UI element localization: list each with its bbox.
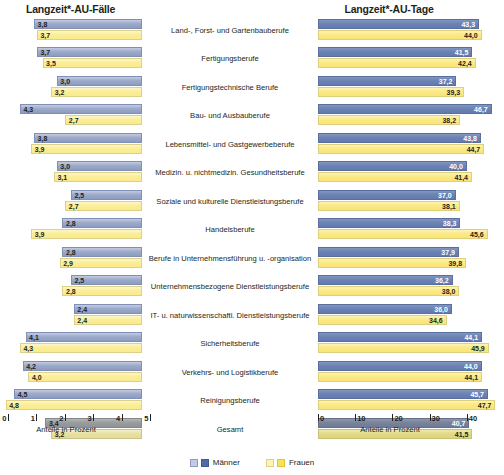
axis-tick-label: 30 <box>430 414 440 423</box>
bar-value-label: 2,4 <box>77 305 87 315</box>
category-label: Unternehmensbezogene Dienstleistungsberu… <box>150 273 310 302</box>
bar-value-label: 4,3 <box>23 344 33 354</box>
bar-value-label: 41,5 <box>455 430 469 440</box>
bar-frauen: 3,9 <box>31 229 142 239</box>
category-label: IT- u. naturwissenschaftl. Dienstleistun… <box>150 301 310 330</box>
category-label: Verkehrs- und Logistikberufe <box>150 358 310 387</box>
bar-value-label: 37,0 <box>438 191 452 201</box>
bar-value-label: 2,4 <box>77 316 87 326</box>
chart-row: 3,73,5 <box>0 45 150 74</box>
bar-frauen: 38,0 <box>318 286 459 296</box>
axis-tick <box>65 414 66 421</box>
bar-maenner: 2,8 <box>62 218 142 228</box>
bar-maenner: 4,2 <box>23 361 142 371</box>
bar-value-label: 4,2 <box>26 362 36 372</box>
category-label: Reinigungsberufe <box>150 387 310 416</box>
bar-value-label: 2,8 <box>66 287 76 297</box>
legend-label: Frauen <box>289 458 314 467</box>
bar-value-label: 3,9 <box>35 230 45 240</box>
bar-value-label: 2,7 <box>69 116 79 126</box>
chart-root: Langzeit*-AU-Fälle Langzeit*-AU-Tage 3,8… <box>0 0 504 475</box>
axis-tick <box>36 414 37 421</box>
bar-value-label: 3,1 <box>57 173 67 183</box>
bar-value-label: 38,3 <box>443 219 457 229</box>
axis-tick <box>93 414 94 421</box>
bar-frauen: 2,7 <box>65 115 142 125</box>
bar-maenner: 36,2 <box>318 275 453 285</box>
bar-value-label: 38,0 <box>442 287 456 297</box>
chart-row: 2,52,8 <box>0 273 150 302</box>
bar-value-label: 3,8 <box>38 20 48 30</box>
category-label: Lebensmittel- und Gastgewerbeberufe <box>150 130 310 159</box>
chart-row: 2,83,9 <box>0 216 150 245</box>
bar-frauen: 3,7 <box>37 30 142 40</box>
x-axis-title-right: Anteile in Prozent <box>360 425 420 434</box>
x-axis-title-left: Anteile in Prozent <box>36 425 96 434</box>
bar-maenner: 44,0 <box>318 361 482 371</box>
bar-value-label: 43,8 <box>463 134 477 144</box>
bar-maenner: 37,2 <box>318 76 456 86</box>
bar-frauen: 47,7 <box>318 400 495 410</box>
bar-value-label: 47,7 <box>478 401 492 411</box>
axis-tick-label: 10 <box>355 414 365 423</box>
bar-maenner: 36,0 <box>318 304 452 314</box>
bar-value-label: 37,2 <box>439 77 453 87</box>
bar-frauen: 2,7 <box>65 201 142 211</box>
axis-tick-label: 0 <box>318 414 324 423</box>
bar-value-label: 44,0 <box>464 362 478 372</box>
bar-value-label: 3,9 <box>35 145 45 155</box>
chart-row: 4,14,3 <box>0 330 150 359</box>
axis-tick-label: 1 <box>31 414 37 423</box>
bar-value-label: 46,7 <box>474 105 488 115</box>
bar-value-label: 38,1 <box>442 202 456 212</box>
bar-value-label: 44,7 <box>467 145 481 155</box>
bar-value-label: 36,0 <box>434 305 448 315</box>
bar-value-label: 4,5 <box>18 390 28 400</box>
axis-tick <box>150 414 151 421</box>
bar-value-label: 4,1 <box>29 333 39 343</box>
axis-tick-label: 40 <box>467 414 477 423</box>
bar-frauen: 44,0 <box>318 30 482 40</box>
bar-value-label: 45,9 <box>471 344 485 354</box>
bar-maenner: 2,8 <box>62 247 142 257</box>
legend-swatch-light-icon <box>190 459 198 467</box>
chart-row: 3,83,7 <box>0 16 150 45</box>
category-label: Sicherheitsberufe <box>150 330 310 359</box>
category-label: Fertigungsberufe <box>150 45 310 74</box>
bar-value-label: 39,8 <box>448 259 462 269</box>
bar-value-label: 2,9 <box>63 259 73 269</box>
bar-frauen: 2,4 <box>74 315 142 325</box>
chart-row: 2,52,7 <box>0 187 150 216</box>
chart-row: 46,738,2 <box>310 102 504 131</box>
category-label: Land-, Forst- und Gartenbauberufe <box>150 16 310 45</box>
chart-row: 36,034,6 <box>310 301 504 330</box>
bar-value-label: 42,4 <box>458 59 472 69</box>
category-label: Handelsberufe <box>150 216 310 245</box>
bar-frauen: 39,3 <box>318 87 464 97</box>
bar-value-label: 3,0 <box>60 162 70 172</box>
bar-frauen: 4,8 <box>6 400 142 410</box>
bar-frauen: 3,2 <box>51 87 142 97</box>
category-label: Berufe in Unternehmensführung u. -organi… <box>150 244 310 273</box>
chart-row: 3,03,1 <box>0 159 150 188</box>
legend-label: Männer <box>213 458 240 467</box>
bar-maenner: 3,8 <box>34 133 142 143</box>
bar-frauen: 38,1 <box>318 201 460 211</box>
bar-value-label: 2,8 <box>66 248 76 258</box>
bar-frauen: 3,9 <box>31 144 142 154</box>
bar-value-label: 2,7 <box>69 202 79 212</box>
legend-item: Männer <box>190 458 240 467</box>
bar-value-label: 4,0 <box>32 373 42 383</box>
bar-maenner: 3,0 <box>57 161 142 171</box>
bar-frauen: 45,6 <box>318 229 488 239</box>
chart-row: 3,03,2 <box>0 73 150 102</box>
chart-row: 2,82,9 <box>0 244 150 273</box>
bar-maenner: 43,8 <box>318 133 481 143</box>
chart-row: 40,041,4 <box>310 159 504 188</box>
bar-value-label: 39,3 <box>447 88 461 98</box>
category-label: Medizin. u. nichtmedizin. Gesundheitsber… <box>150 159 310 188</box>
panel-au-tage: 43,344,041,542,437,239,346,738,243,844,7… <box>310 16 504 414</box>
category-label: Bau- und Ausbauberufe <box>150 102 310 131</box>
bar-value-label: 36,2 <box>435 276 449 286</box>
bar-maenner: 38,3 <box>318 218 460 228</box>
